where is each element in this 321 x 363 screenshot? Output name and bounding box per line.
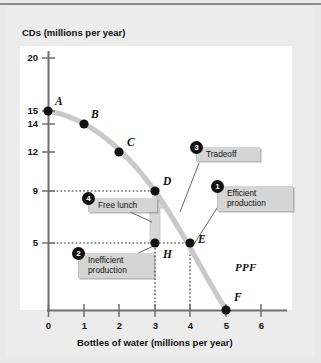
- x-tick-label-6: 6: [255, 321, 268, 331]
- x-axis-title: Bottles of water (millions per year): [77, 338, 233, 348]
- x-tick-label-3: 3: [149, 321, 162, 331]
- chart-canvas: [0, 0, 321, 363]
- x-tick-label-5: 5: [220, 321, 233, 331]
- callout-efficient-line-1: Efficient: [227, 188, 289, 198]
- point-label-H: H: [163, 249, 172, 261]
- x-tick-label-2: 2: [113, 321, 126, 331]
- x-tick-label-1: 1: [78, 321, 91, 331]
- point-label-D: D: [163, 176, 171, 188]
- callout-inefficient-production[interactable]: Inefficient production: [78, 253, 154, 278]
- callout-free-lunch[interactable]: Free lunch: [88, 198, 157, 212]
- leader-line-3: [180, 163, 199, 212]
- data-point-D: [150, 186, 159, 195]
- data-point-E: [185, 238, 194, 247]
- y-tick-label-20: 20: [14, 53, 38, 63]
- ppf-figure: CDs (millions per year) Bottles of water…: [0, 0, 321, 363]
- y-tick-label-5: 5: [14, 238, 38, 248]
- data-point-F: [221, 305, 230, 314]
- callout-tradeoff[interactable]: Tradeoff: [196, 147, 260, 161]
- point-label-F: F: [234, 292, 242, 304]
- point-label-E: E: [198, 234, 206, 246]
- callout-efficient-line-2: production: [227, 198, 289, 208]
- point-label-B: B: [91, 109, 99, 121]
- callout-badge-2[interactable]: 2: [72, 247, 85, 260]
- x-tick-label-4: 4: [184, 321, 197, 331]
- data-point-H: [150, 238, 159, 247]
- data-point-C: [114, 147, 123, 156]
- y-tick-label-12: 12: [14, 147, 38, 157]
- point-label-C: C: [127, 137, 135, 149]
- y-tick-label-14: 14: [14, 119, 38, 129]
- callout-free-lunch-line-1: Free lunch: [98, 200, 153, 210]
- x-tick-label-0: 0: [42, 321, 55, 331]
- y-tick-label-9: 9: [14, 186, 38, 196]
- callout-tradeoff-line-1: Tradeoff: [206, 149, 256, 159]
- data-point-B: [79, 119, 88, 128]
- ppf-curve-label: PPF: [235, 262, 257, 273]
- callout-badge-4[interactable]: 4: [82, 192, 95, 205]
- y-axis-title: CDs (millions per year): [22, 28, 125, 38]
- callout-badge-1[interactable]: 1: [211, 180, 224, 193]
- point-label-A: A: [55, 96, 63, 108]
- callout-inefficient-line-2: production: [88, 265, 150, 275]
- data-point-A: [43, 106, 52, 115]
- callout-badge-3[interactable]: 3: [190, 141, 203, 154]
- y-tick-label-15: 15: [14, 106, 38, 116]
- leader-line-4: [130, 212, 152, 222]
- callout-inefficient-line-1: Inefficient: [88, 255, 150, 265]
- callout-efficient-production[interactable]: Efficient production: [217, 186, 293, 211]
